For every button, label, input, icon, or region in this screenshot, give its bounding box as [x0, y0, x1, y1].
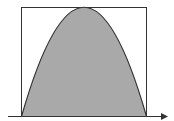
parabola-area-diagram [0, 0, 174, 121]
parabolic-region [22, 7, 147, 116]
x-axis-arrow-icon [161, 113, 168, 120]
